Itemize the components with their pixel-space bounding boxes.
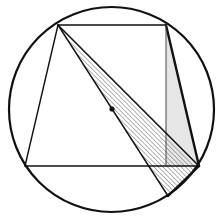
figure-canvas [0, 0, 222, 217]
center-point [109, 106, 114, 111]
geometry-figure [0, 0, 222, 217]
